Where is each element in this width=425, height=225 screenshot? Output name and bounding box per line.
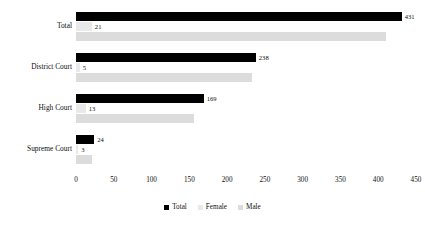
bar-group-total: 431 21	[76, 12, 416, 53]
legend-swatch-male-icon	[238, 205, 243, 210]
bar-total-total	[76, 12, 402, 21]
x-tick-label: 150	[184, 176, 195, 184]
legend-swatch-total-icon	[164, 205, 169, 210]
bar-group-high-court: 169 13	[76, 94, 416, 135]
x-tick-label: 100	[146, 176, 157, 184]
x-axis-ticks: 050100150200250300350400450	[76, 176, 416, 190]
bar-group-supreme-court: 24 3	[76, 135, 416, 176]
x-tick-label: 400	[373, 176, 384, 184]
bar-district-court-female	[76, 63, 80, 72]
x-tick-label: 300	[297, 176, 308, 184]
category-axis-labels: Total District Court High Court Supreme …	[0, 0, 72, 172]
category-label: High Court	[39, 104, 72, 111]
bar-label-high-court-female: 13	[89, 104, 96, 113]
legend-item-female: Female	[198, 203, 227, 211]
bar-group-district-court: 238 5	[76, 53, 416, 94]
bar-label-total-total: 431	[405, 12, 415, 21]
bar-label-total-female: 21	[95, 22, 102, 31]
x-tick-label: 50	[110, 176, 117, 184]
category-label: Supreme Court	[27, 145, 72, 152]
bar-supreme-court-male	[76, 155, 92, 164]
bar-total-male	[76, 32, 386, 41]
bar-label-supreme-court-female: 3	[81, 145, 84, 154]
bar-label-district-court-total: 238	[259, 53, 269, 62]
bar-district-court-total	[76, 53, 256, 62]
bar-label-district-court-female: 5	[83, 63, 86, 72]
bar-supreme-court-total	[76, 135, 94, 144]
plot-area: 431 21 238 5 169 13 24 3	[76, 8, 416, 172]
x-tick-label: 200	[222, 176, 233, 184]
bar-label-high-court-total: 169	[207, 94, 217, 103]
bar-high-court-total	[76, 94, 204, 103]
bar-district-court-male	[76, 73, 252, 82]
legend-label-total: Total	[172, 203, 187, 211]
bar-total-female	[76, 22, 92, 31]
bar-high-court-male	[76, 114, 194, 123]
legend-label-male: Male	[246, 203, 261, 211]
legend-label-female: Female	[206, 203, 227, 211]
bar-high-court-female	[76, 104, 86, 113]
legend-swatch-female-icon	[198, 205, 203, 210]
chart-legend: Total Female Male	[0, 203, 425, 211]
x-tick-label: 350	[335, 176, 346, 184]
bar-chart: Total District Court High Court Supreme …	[0, 0, 425, 225]
x-tick-label: 0	[74, 176, 78, 184]
bar-label-supreme-court-total: 24	[97, 135, 104, 144]
category-label: District Court	[31, 63, 72, 70]
x-tick-label: 450	[411, 176, 422, 184]
legend-item-male: Male	[238, 203, 261, 211]
legend-item-total: Total	[164, 203, 187, 211]
bar-supreme-court-female	[76, 145, 78, 154]
x-tick-label: 250	[259, 176, 270, 184]
category-label: Total	[57, 22, 72, 29]
